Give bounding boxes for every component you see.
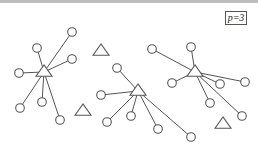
leaf-node-circle <box>206 99 215 108</box>
cluster-diagram <box>0 0 258 152</box>
isolated-triangle <box>215 117 231 128</box>
leaf-node-circle <box>68 55 77 64</box>
isolated-triangle <box>93 44 109 55</box>
leaf-node-circle <box>148 45 157 54</box>
edge <box>195 72 242 116</box>
leaf-node-circle <box>113 64 122 73</box>
leaf-node-circle <box>154 125 163 134</box>
leaf-node-circle <box>16 104 25 113</box>
leaf-node-circle <box>33 44 42 53</box>
edge <box>138 91 191 137</box>
edge <box>44 72 60 120</box>
leaf-node-circle <box>168 79 177 88</box>
leaf-node-circle <box>56 116 65 125</box>
edge <box>152 49 195 72</box>
p-label: p=3 <box>225 11 247 25</box>
leaf-node-circle <box>238 112 247 121</box>
center-node-triangle <box>130 84 146 95</box>
leaf-node-circle <box>15 69 24 78</box>
leaf-node-circle <box>216 80 225 89</box>
leaf-node-circle <box>127 112 136 121</box>
leaf-node-circle <box>103 118 112 127</box>
leaf-node-circle <box>187 133 196 142</box>
edge <box>138 91 158 129</box>
center-node-triangle <box>36 65 52 76</box>
leaf-node-circle <box>241 78 250 87</box>
center-node-triangle <box>187 65 203 76</box>
leaf-node-circle <box>187 43 196 52</box>
leaf-node-circle <box>97 91 106 100</box>
leaf-node-circle <box>38 98 47 107</box>
isolated-triangle <box>75 104 91 115</box>
leaf-node-circle <box>68 28 77 37</box>
